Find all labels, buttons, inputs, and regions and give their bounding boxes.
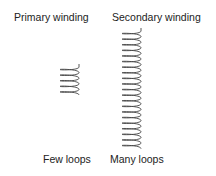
few-loops-caption: Few loops [43, 153, 91, 165]
secondary-coil-icon [122, 28, 141, 149]
many-loops-caption: Many loops [110, 153, 164, 165]
coils-diagram [0, 0, 216, 176]
primary-coil-icon [60, 64, 79, 95]
